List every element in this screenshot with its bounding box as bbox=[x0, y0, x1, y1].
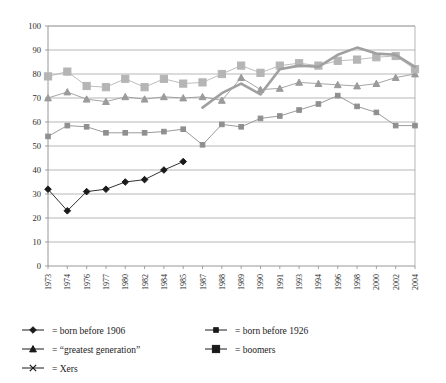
legend-label: = born before 1926 bbox=[235, 326, 308, 336]
marker-square bbox=[199, 79, 206, 86]
y-axis-label: 40 bbox=[33, 165, 42, 175]
marker-diamond bbox=[180, 158, 187, 165]
marker-square bbox=[64, 68, 71, 75]
marker-small-square bbox=[214, 328, 219, 333]
y-axis-label: 10 bbox=[33, 237, 42, 247]
x-axis-label: 1974 bbox=[63, 274, 72, 290]
marker-small-square bbox=[277, 114, 282, 119]
marker-triangle bbox=[122, 93, 129, 99]
marker-square bbox=[218, 70, 225, 77]
marker-square bbox=[180, 80, 187, 87]
x-axis-label: 1985 bbox=[179, 274, 188, 290]
y-axis-label: 80 bbox=[33, 69, 42, 79]
marker-small-square bbox=[65, 123, 70, 128]
y-axis-label: 70 bbox=[33, 93, 42, 103]
marker-triangle bbox=[64, 89, 71, 95]
legend-label: = born before 1906 bbox=[52, 326, 125, 336]
marker-small-square bbox=[123, 131, 128, 136]
x-axis-label: 1980 bbox=[121, 274, 130, 290]
marker-diamond bbox=[30, 327, 37, 334]
x-axis-label: 1987 bbox=[199, 274, 208, 290]
marker-square bbox=[212, 345, 219, 352]
x-axis-label: 1990 bbox=[256, 274, 265, 290]
marker-small-square bbox=[316, 102, 321, 107]
marker-small-square bbox=[374, 110, 379, 115]
marker-square bbox=[334, 57, 341, 64]
legend-label: = “greatest generation” bbox=[52, 345, 140, 355]
marker-triangle bbox=[83, 96, 90, 102]
legend-item-boomers[interactable]: = boomers bbox=[205, 345, 276, 355]
marker-small-square bbox=[104, 131, 109, 136]
marker-triangle bbox=[373, 80, 380, 86]
marker-small-square bbox=[84, 125, 89, 130]
x-axis-label: 1998 bbox=[353, 274, 362, 290]
y-axis-label: 0 bbox=[37, 261, 41, 271]
y-axis-label: 20 bbox=[33, 213, 42, 223]
y-axis-label: 90 bbox=[33, 45, 42, 55]
marker-small-square bbox=[220, 122, 225, 127]
legend: = born before 1906= born before 1926= “g… bbox=[22, 326, 308, 374]
marker-small-square bbox=[181, 127, 186, 132]
x-axis-label: 1973 bbox=[44, 274, 53, 290]
x-axis-label: 1976 bbox=[83, 274, 92, 290]
marker-diamond bbox=[161, 167, 168, 174]
marker-square bbox=[141, 84, 148, 91]
marker-square bbox=[83, 82, 90, 89]
x-axis-label: 1993 bbox=[295, 274, 304, 290]
x-axis-labels: 1973197419761977198019821984198519871988… bbox=[44, 266, 420, 290]
legend-item-xers[interactable]: = Xers bbox=[22, 364, 78, 374]
marker-diamond bbox=[122, 179, 129, 186]
marker-small-square bbox=[162, 129, 167, 134]
x-axis-label: 1984 bbox=[160, 274, 169, 290]
legend-item-born-before-1906[interactable]: = born before 1906 bbox=[22, 326, 125, 336]
x-axis-label: 2004 bbox=[411, 274, 420, 290]
x-axis-label: 2000 bbox=[372, 274, 381, 290]
x-axis-label: 1977 bbox=[102, 274, 111, 290]
x-axis-label: 1988 bbox=[218, 274, 227, 290]
marker-square bbox=[257, 69, 264, 76]
marker-square bbox=[353, 56, 360, 63]
y-axis-label: 50 bbox=[33, 141, 42, 151]
marker-square bbox=[44, 73, 51, 80]
line-chart: 0102030405060708090100197319741976197719… bbox=[0, 0, 446, 383]
legend-item-greatest-generation[interactable]: = “greatest generation” bbox=[22, 345, 140, 355]
chart-canvas: 0102030405060708090100197319741976197719… bbox=[0, 0, 446, 383]
marker-small-square bbox=[355, 104, 360, 109]
marker-triangle bbox=[238, 74, 245, 80]
marker-diamond bbox=[141, 176, 148, 183]
x-axis-label: 1996 bbox=[334, 274, 343, 290]
marker-diamond bbox=[103, 186, 110, 193]
marker-small-square bbox=[200, 143, 205, 148]
marker-small-square bbox=[413, 123, 418, 128]
y-axis-label: 30 bbox=[33, 189, 42, 199]
y-axis-label: 60 bbox=[33, 117, 42, 127]
series-born-before-1906 bbox=[45, 158, 187, 214]
legend-label: = Xers bbox=[52, 364, 78, 374]
marker-small-square bbox=[258, 116, 263, 121]
marker-small-square bbox=[142, 131, 147, 136]
x-axis-label: 2002 bbox=[392, 274, 401, 290]
x-axis-label: 1989 bbox=[237, 274, 246, 290]
marker-small-square bbox=[297, 108, 302, 113]
marker-square bbox=[102, 84, 109, 91]
legend-item-born-before-1926[interactable]: = born before 1926 bbox=[205, 326, 308, 336]
marker-square bbox=[122, 75, 129, 82]
marker-small-square bbox=[239, 125, 244, 130]
marker-small-square bbox=[393, 123, 398, 128]
marker-small-square bbox=[46, 134, 51, 139]
y-axis-label: 100 bbox=[28, 21, 41, 31]
x-axis-label: 1994 bbox=[314, 274, 323, 290]
x-axis-label: 1991 bbox=[276, 274, 285, 290]
marker-small-square bbox=[335, 93, 340, 98]
marker-square bbox=[238, 62, 245, 69]
x-axis-label: 1982 bbox=[141, 274, 150, 290]
marker-square bbox=[160, 75, 167, 82]
legend-label: = boomers bbox=[235, 345, 276, 355]
